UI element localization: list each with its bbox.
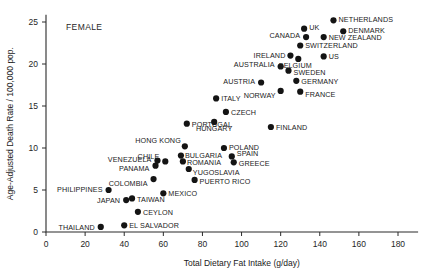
y-tick-label: 25 bbox=[29, 17, 39, 27]
data-point bbox=[184, 121, 190, 127]
data-point bbox=[162, 158, 168, 164]
data-point bbox=[129, 195, 135, 201]
data-point-label: POLAND bbox=[229, 143, 259, 152]
data-point bbox=[301, 26, 307, 32]
x-tick-label: 0 bbox=[44, 239, 49, 249]
x-tick-label: 120 bbox=[274, 239, 288, 249]
data-point-label: MEXICO bbox=[168, 189, 197, 198]
y-axis-title: Age-Adjusted Death Rate / 100,000 pop. bbox=[5, 47, 15, 200]
data-point-label: EL SALVADOR bbox=[129, 221, 179, 230]
data-point-label: AUSTRALIA bbox=[234, 60, 275, 69]
data-point-label: BELGIUM bbox=[279, 61, 312, 70]
data-point bbox=[229, 153, 235, 159]
y-tick-label: 20 bbox=[29, 59, 39, 69]
data-point bbox=[98, 224, 104, 230]
y-tick-label: 5 bbox=[33, 185, 38, 195]
data-point-label: YUGOSLAVIA bbox=[193, 168, 240, 177]
data-point bbox=[150, 176, 156, 182]
data-point-label: AUSTRIA bbox=[223, 77, 255, 86]
x-tick-label: 80 bbox=[198, 239, 208, 249]
data-point-label: FINLAND bbox=[276, 123, 307, 132]
scatter-plot-figure: 020406080100120140160180 0510152025 THAI… bbox=[0, 0, 422, 272]
data-point-label: CEYLON bbox=[143, 208, 173, 217]
data-point bbox=[258, 79, 264, 85]
data-point-label: CZECH bbox=[231, 108, 256, 117]
data-point-label: PUERTO RICO bbox=[200, 177, 251, 186]
data-point bbox=[213, 95, 219, 101]
x-tick-label: 140 bbox=[313, 239, 327, 249]
data-point-label: COLOMBIA bbox=[109, 179, 148, 188]
data-point bbox=[321, 34, 327, 40]
data-point-label: CHILE bbox=[138, 152, 160, 161]
data-point-label: HUNGARY bbox=[196, 124, 233, 133]
data-point bbox=[223, 109, 229, 115]
data-point-label: UK bbox=[309, 23, 319, 32]
series-annotation: FEMALE bbox=[66, 22, 102, 32]
x-tick-labels: 020406080100120140160180 bbox=[44, 239, 406, 249]
data-point-label: FRANCE bbox=[305, 90, 335, 99]
data-point bbox=[321, 53, 327, 59]
chart-canvas: 020406080100120140160180 0510152025 THAI… bbox=[0, 0, 422, 272]
data-point-label: ITALY bbox=[221, 94, 241, 103]
data-point-label: CANADA bbox=[270, 31, 301, 40]
data-point bbox=[287, 53, 293, 59]
data-point-label: HONG KONG bbox=[135, 136, 181, 145]
data-point bbox=[293, 78, 299, 84]
data-point-label: IRELAND bbox=[254, 51, 286, 60]
data-point-label: JAPAN bbox=[97, 196, 120, 205]
data-point bbox=[192, 177, 198, 183]
data-point-label: GREECE bbox=[239, 159, 270, 168]
data-point bbox=[178, 152, 184, 158]
data-point-label: THAILAND bbox=[58, 223, 94, 232]
x-tick-label: 20 bbox=[80, 239, 90, 249]
x-tick-label: 160 bbox=[352, 239, 366, 249]
data-point bbox=[135, 209, 141, 215]
data-point-label: PANAMA bbox=[119, 164, 150, 173]
y-tick-label: 0 bbox=[33, 227, 38, 237]
data-point-label: NETHERLANDS bbox=[338, 15, 393, 24]
x-tick-label: 180 bbox=[391, 239, 405, 249]
data-point-label: ROMANIA bbox=[187, 158, 221, 167]
x-tick-label: 40 bbox=[119, 239, 129, 249]
data-point bbox=[278, 88, 284, 94]
x-tick-label: 100 bbox=[234, 239, 248, 249]
data-point-labels: THAILANDEL SALVADORCEYLONJAPANTAIWANPHIL… bbox=[57, 15, 393, 232]
data-point bbox=[123, 197, 129, 203]
data-point-label: NORWAY bbox=[244, 91, 276, 100]
data-point bbox=[297, 42, 303, 48]
y-tick-label: 15 bbox=[29, 101, 39, 111]
data-point bbox=[268, 124, 274, 130]
data-point-label: US bbox=[329, 52, 339, 61]
data-point bbox=[297, 89, 303, 95]
x-axis-title: Total Dietary Fat Intake (g/day) bbox=[184, 258, 300, 268]
data-point-label: DENMARK bbox=[348, 26, 385, 35]
x-tick-label: 60 bbox=[159, 239, 169, 249]
data-point bbox=[330, 17, 336, 23]
data-point bbox=[231, 159, 237, 165]
data-point-label: GERMANY bbox=[301, 77, 338, 86]
data-point-label: TAIWAN bbox=[137, 195, 165, 204]
y-tick-label: 10 bbox=[29, 143, 39, 153]
data-point-label: PHILIPPINES bbox=[57, 185, 103, 194]
y-tick-labels: 0510152025 bbox=[29, 17, 39, 237]
data-point bbox=[182, 143, 188, 149]
data-point bbox=[121, 222, 127, 228]
data-point bbox=[303, 34, 309, 40]
data-point-label: BULGARIA bbox=[185, 151, 222, 160]
